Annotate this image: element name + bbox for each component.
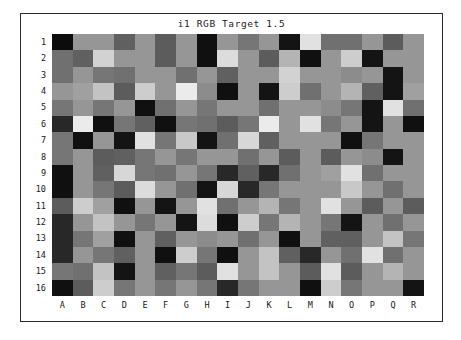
color-swatch bbox=[52, 116, 73, 132]
color-swatch bbox=[155, 100, 176, 116]
color-swatch bbox=[383, 83, 404, 99]
color-swatch bbox=[197, 149, 218, 165]
color-swatch bbox=[155, 247, 176, 263]
color-swatch bbox=[176, 100, 197, 116]
color-swatch bbox=[197, 34, 218, 50]
color-swatch bbox=[52, 247, 73, 263]
color-swatch bbox=[238, 165, 259, 181]
color-swatch bbox=[383, 116, 404, 132]
color-swatch bbox=[93, 280, 114, 296]
color-swatch bbox=[73, 198, 94, 214]
color-swatch bbox=[321, 132, 342, 148]
column-label: E bbox=[135, 297, 156, 313]
color-swatch bbox=[155, 165, 176, 181]
color-swatch bbox=[52, 280, 73, 296]
color-swatch bbox=[155, 149, 176, 165]
color-swatch bbox=[341, 50, 362, 66]
color-swatch bbox=[155, 214, 176, 230]
row-label: 5 bbox=[23, 100, 47, 116]
color-swatch bbox=[341, 214, 362, 230]
row-label: 2 bbox=[23, 50, 47, 66]
color-swatch bbox=[362, 149, 383, 165]
color-swatch bbox=[362, 181, 383, 197]
color-swatch bbox=[362, 247, 383, 263]
color-swatch bbox=[403, 247, 424, 263]
color-swatch bbox=[259, 83, 280, 99]
color-swatch bbox=[362, 280, 383, 296]
color-swatch bbox=[362, 83, 383, 99]
color-swatch bbox=[114, 247, 135, 263]
color-swatch bbox=[114, 280, 135, 296]
color-swatch bbox=[321, 165, 342, 181]
color-swatch bbox=[114, 116, 135, 132]
color-swatch bbox=[197, 263, 218, 279]
color-swatch bbox=[383, 214, 404, 230]
color-swatch bbox=[114, 132, 135, 148]
color-swatch bbox=[197, 67, 218, 83]
color-swatch bbox=[93, 132, 114, 148]
color-swatch bbox=[135, 132, 156, 148]
column-label: P bbox=[362, 297, 383, 313]
color-swatch bbox=[279, 198, 300, 214]
color-swatch bbox=[114, 231, 135, 247]
color-swatch bbox=[279, 214, 300, 230]
column-label: N bbox=[321, 297, 342, 313]
color-swatch bbox=[341, 132, 362, 148]
color-swatch bbox=[403, 231, 424, 247]
color-swatch bbox=[155, 280, 176, 296]
color-swatch bbox=[217, 83, 238, 99]
color-swatch bbox=[259, 247, 280, 263]
color-swatch bbox=[321, 83, 342, 99]
color-swatch bbox=[176, 280, 197, 296]
color-swatch bbox=[52, 181, 73, 197]
color-swatch bbox=[321, 34, 342, 50]
color-swatch bbox=[362, 263, 383, 279]
color-swatch bbox=[403, 165, 424, 181]
color-swatch bbox=[217, 280, 238, 296]
color-swatch bbox=[52, 165, 73, 181]
color-swatch bbox=[321, 50, 342, 66]
column-label: I bbox=[217, 297, 238, 313]
color-swatch bbox=[341, 263, 362, 279]
color-swatch bbox=[238, 132, 259, 148]
figure-frame: i1 RGB Target 1.5 1234567891011121314151… bbox=[20, 13, 443, 322]
color-swatch bbox=[383, 181, 404, 197]
color-swatch bbox=[341, 280, 362, 296]
color-swatch bbox=[93, 165, 114, 181]
color-swatch bbox=[217, 198, 238, 214]
color-swatch bbox=[341, 231, 362, 247]
color-swatch bbox=[135, 198, 156, 214]
color-swatch bbox=[73, 181, 94, 197]
color-swatch bbox=[135, 280, 156, 296]
color-swatch bbox=[73, 247, 94, 263]
color-swatch bbox=[114, 181, 135, 197]
color-swatch bbox=[362, 198, 383, 214]
color-swatch bbox=[403, 214, 424, 230]
color-swatch bbox=[238, 34, 259, 50]
color-swatch bbox=[321, 67, 342, 83]
color-swatch bbox=[403, 198, 424, 214]
color-swatch bbox=[279, 50, 300, 66]
color-swatch bbox=[73, 50, 94, 66]
color-swatch bbox=[383, 50, 404, 66]
color-swatch bbox=[341, 181, 362, 197]
color-swatch bbox=[73, 165, 94, 181]
color-swatch bbox=[73, 100, 94, 116]
color-swatch bbox=[403, 116, 424, 132]
row-label: 10 bbox=[23, 181, 47, 197]
column-label: J bbox=[238, 297, 259, 313]
color-swatch bbox=[341, 149, 362, 165]
color-swatch bbox=[321, 214, 342, 230]
row-label: 16 bbox=[23, 280, 47, 296]
color-swatch bbox=[217, 181, 238, 197]
color-swatch bbox=[217, 50, 238, 66]
column-label: H bbox=[197, 297, 218, 313]
color-swatch bbox=[93, 34, 114, 50]
color-swatch bbox=[135, 100, 156, 116]
color-swatch bbox=[217, 247, 238, 263]
row-label: 13 bbox=[23, 231, 47, 247]
color-swatch bbox=[217, 149, 238, 165]
color-swatch bbox=[279, 280, 300, 296]
color-swatch bbox=[217, 67, 238, 83]
color-swatch bbox=[197, 280, 218, 296]
